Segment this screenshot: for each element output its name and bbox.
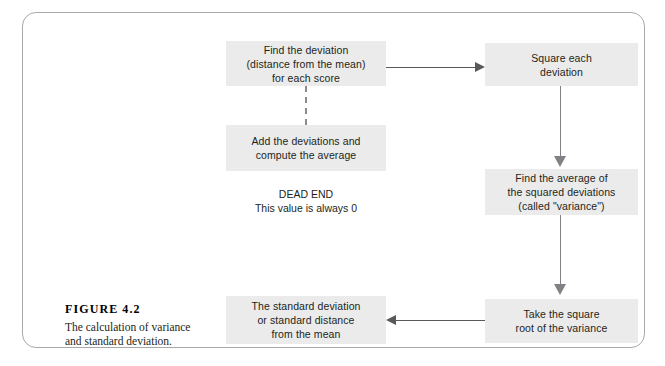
node-standard-deviation-label: The standard deviation or standard dista…	[251, 299, 360, 341]
node-find-the-average-variance: Find the average of the squared deviatio…	[485, 169, 638, 215]
connector-square-to-variance	[560, 86, 561, 158]
node-find-the-average-variance-label: Find the average of the squared deviatio…	[508, 171, 616, 213]
connector-sqrt-to-stddev	[395, 320, 485, 321]
node-standard-deviation: The standard deviation or standard dista…	[226, 296, 386, 344]
node-add-the-deviations: Add the deviations and compute the avera…	[226, 125, 386, 171]
node-find-the-deviation-label: Find the deviation (distance from the me…	[246, 43, 365, 85]
dead-end-annotation: DEAD END This value is always 0	[226, 187, 386, 215]
figure-caption: FIGURE 4.2 The calculation of variance a…	[65, 302, 215, 348]
connector-variance-to-sqrt	[560, 215, 561, 286]
arrowhead-down-icon	[554, 156, 566, 167]
node-add-the-deviations-label: Add the deviations and compute the avera…	[251, 134, 360, 162]
figure-frame: Find the deviation (distance from the me…	[22, 12, 645, 348]
node-square-each-deviation-label: Square each deviation	[531, 51, 592, 79]
figure-number: FIGURE 4.2	[65, 302, 215, 317]
arrowhead-down-icon	[554, 284, 566, 295]
node-take-square-root: Take the square root of the variance	[485, 299, 638, 343]
figure-description: The calculation of variance and standard…	[65, 320, 215, 348]
node-find-the-deviation: Find the deviation (distance from the me…	[226, 41, 386, 86]
connector-deviation-to-square	[386, 67, 478, 68]
arrowhead-left-icon	[386, 315, 396, 325]
node-take-square-root-label: Take the square root of the variance	[516, 307, 608, 335]
dashed-connector-deviation-to-add	[305, 86, 307, 125]
node-square-each-deviation: Square each deviation	[485, 43, 638, 86]
arrowhead-right-icon	[475, 62, 485, 72]
